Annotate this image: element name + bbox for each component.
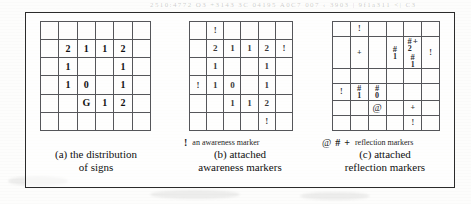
grid-cell-r3-c1: 1 — [59, 76, 77, 94]
grid-cell-r5-c5 — [422, 116, 440, 131]
grid-cell-r0-c2 — [224, 22, 241, 40]
grid-cell-r4-c5 — [133, 95, 151, 113]
grid-cell-r2-c5 — [276, 58, 293, 76]
at-reflection-marker-icon: @ — [322, 137, 331, 148]
grid-cell-r3-c2: 0 — [224, 76, 241, 94]
grid-cell-r3-c2: #0 — [369, 84, 387, 101]
grid-cell-r0-c2 — [369, 22, 387, 37]
legend-c-text: reflection markers — [355, 138, 413, 147]
grid-cell-r0-c1: ! — [351, 22, 369, 37]
legend-c-symbols: @ # + — [322, 137, 350, 148]
caption-c-line-1: (c) attached — [314, 148, 456, 162]
grid-cell-r0-c5 — [422, 22, 440, 37]
grid-cell-r4-c5 — [276, 95, 293, 113]
grid-cell-r0-c5 — [276, 22, 293, 40]
grid-cell-r1-c1: 2 — [59, 40, 77, 58]
grid-cell-r1-c4: 2 — [114, 40, 132, 58]
grid-cell-r2-c4: 1 — [114, 58, 132, 76]
legend-b-text: an awareness marker — [192, 138, 259, 147]
grid-cell-r0-c0 — [333, 22, 351, 37]
grid-cell-r1-c0 — [333, 37, 351, 69]
grid-cell-r0-c5 — [133, 22, 151, 40]
grid-cell-r0-c4 — [404, 22, 422, 37]
grid-cell-r2-c2 — [224, 58, 241, 76]
grid-cell-r4-c0 — [333, 101, 351, 116]
grid-cell-r2-c3 — [241, 58, 258, 76]
grid-cell-r3-c5 — [422, 84, 440, 101]
grid-cell-r3-c5 — [133, 76, 151, 94]
background-ghost-text: 2510:4772 O3 +3143 3C 04195 A0C7 007 ‹ 3… — [150, 1, 467, 11]
grid-cell-r5-c0 — [41, 113, 59, 131]
grid-cell-r5-c2 — [369, 116, 387, 131]
grid-cell-r5-c4: ! — [259, 113, 276, 131]
grid-cell-r4-c5 — [422, 101, 440, 116]
plus-reflection-marker-icon: + — [413, 37, 418, 46]
grid-cell-r2-c3 — [96, 58, 114, 76]
grid-cell-r2-c5 — [133, 58, 151, 76]
hash-reflection-marker-icon: # — [335, 137, 340, 148]
grid-cell-r5-c5 — [276, 113, 293, 131]
caption-c: (c) attached reflection markers — [314, 148, 456, 176]
hash-reflection-marker-icon: #2 — [408, 37, 412, 53]
grid-cell-r1-c3: 1 — [241, 40, 258, 58]
grid-cell-r0-c1: ! — [207, 22, 224, 40]
legend-b-symbols: ! — [184, 137, 187, 148]
grid-cell-r2-c5 — [422, 69, 440, 84]
grid-cell-r2-c0 — [333, 69, 351, 84]
grid-cell-r2-c2 — [78, 58, 96, 76]
grid-cell-r3-c0: ! — [333, 84, 351, 101]
grid-cell-r3-c3 — [387, 84, 405, 101]
grid-cell-r1-c3: #1 — [387, 37, 405, 69]
grid-cell-r1-c2: 1 — [78, 40, 96, 58]
grid-cell-r3-c1: #1 — [351, 84, 369, 101]
grid-cell-r1-c1: + — [351, 37, 369, 69]
at-reflection-marker-icon: @ — [372, 103, 381, 113]
caption-b: (b) attached awareness markers — [166, 148, 314, 176]
grid-cell-r2-c0 — [190, 58, 207, 76]
grid-cell-r5-c3 — [96, 113, 114, 131]
grid-cell-r0-c3 — [241, 22, 258, 40]
grid-cell-r4-c2: @ — [369, 101, 387, 116]
grid-cell-r3-c0 — [41, 76, 59, 94]
grid-cell-r4-c1 — [207, 95, 224, 113]
panel-a-distribution-of-signs: 211211101G12 (a) the distribution of sig… — [26, 13, 166, 187]
grid-cell-r5-c1 — [207, 113, 224, 131]
grid-cell-r0-c0 — [41, 22, 59, 40]
grid-cell-r5-c0 — [333, 116, 351, 131]
grid-cell-r1-c0 — [41, 40, 59, 58]
grid-cell-r1-c2: 1 — [224, 40, 241, 58]
grid-cell-r0-c1 — [59, 22, 77, 40]
grid-cell-r3-c5 — [276, 76, 293, 94]
grid-cell-r4-c4: + — [404, 101, 422, 116]
grid-cell-r4-c1 — [59, 95, 77, 113]
grid-cell-r1-c5: ! — [422, 37, 440, 69]
panel-b-attached-awareness-markers: !2112!11!101112! ! an awareness marker (… — [166, 13, 314, 187]
grid-cell-r3-c3 — [96, 76, 114, 94]
grid-cell-r0-c2 — [78, 22, 96, 40]
grid-b: !2112!11!101112! — [189, 21, 293, 131]
plus-reflection-marker-icon: + — [344, 137, 350, 148]
grid-cell-r4-c3: 1 — [241, 95, 258, 113]
grid-cell-r1-c5: ! — [276, 40, 293, 58]
panel-c-attached-reflection-markers: !+#1#2+#1!!#1#0@+! @ # + reflection mark… — [314, 13, 456, 187]
grid-cell-r0-c4 — [114, 22, 132, 40]
grid-cell-r4-c3: 1 — [96, 95, 114, 113]
grid-cell-r5-c3 — [241, 113, 258, 131]
grid-cell-r4-c0 — [190, 95, 207, 113]
hash-reflection-marker-icon: #0 — [375, 84, 379, 100]
grid-cell-r4-c4: 2 — [259, 95, 276, 113]
grid-cell-r3-c4: 1 — [259, 76, 276, 94]
grid-cell-r2-c1 — [351, 69, 369, 84]
grid-cell-r3-c4 — [404, 84, 422, 101]
grid-cell-r3-c0: ! — [190, 76, 207, 94]
grid-cell-r0-c3 — [96, 22, 114, 40]
grid-cell-r3-c3 — [241, 76, 258, 94]
grid-cell-r2-c1: 1 — [207, 58, 224, 76]
grid-cell-r4-c4: 2 — [114, 95, 132, 113]
grid-cell-r4-c2: 1 — [224, 95, 241, 113]
grid-cell-r1-c4: #2+#1 — [404, 37, 422, 69]
hash-plus-reflection-marker-group: #2+#1 — [408, 37, 418, 68]
grid-cell-r4-c0 — [41, 95, 59, 113]
grid-cell-r1-c1: 2 — [207, 40, 224, 58]
grid-cell-r1-c0 — [190, 40, 207, 58]
